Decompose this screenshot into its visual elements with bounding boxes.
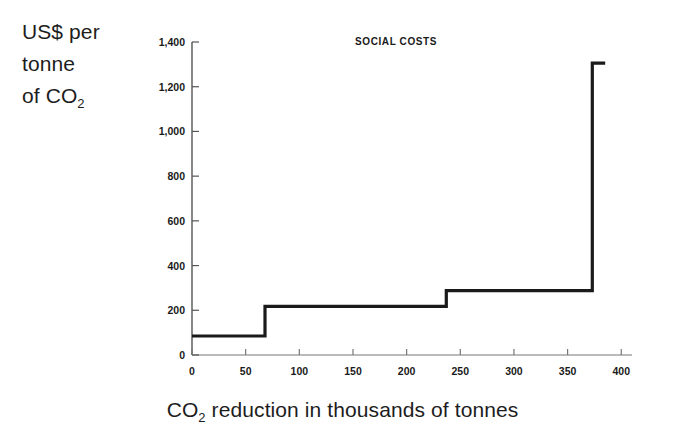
x-axis-ticks	[192, 349, 621, 355]
y-axis-ticks	[192, 42, 199, 355]
y-axis-tick-label: 1,400	[159, 36, 185, 48]
x-axis-tick-label: 200	[398, 365, 416, 377]
y-axis-tick-label: 400	[167, 260, 185, 272]
x-axis-tick-label: 300	[505, 365, 523, 377]
x-axis-caption-suffix: reduction in thousands of tonnes	[206, 398, 519, 421]
y-axis-tick-label: 1,200	[159, 81, 185, 93]
y-axis-tick-label: 0	[179, 349, 185, 361]
x-axis-tick-label: 400	[613, 365, 631, 377]
x-axis-caption: CO2 reduction in thousands of tonnes	[0, 398, 685, 422]
y-axis-tick-labels: 02004006008001,0001,2001,400	[159, 36, 185, 361]
y-axis-tick-label: 800	[167, 170, 185, 182]
x-axis-caption-prefix: CO	[167, 398, 199, 421]
y-axis-tick-label: 200	[167, 304, 185, 316]
x-axis-tick-label: 100	[291, 365, 309, 377]
y-axis-tick-label: 1,000	[159, 125, 185, 137]
chart-figure: US$ per tonne of CO2 SOCIAL COSTS 020040…	[0, 0, 685, 436]
x-axis-tick-label: 150	[344, 365, 362, 377]
x-axis-tick-label: 250	[452, 365, 470, 377]
x-axis-tick-label: 350	[559, 365, 577, 377]
plot-area: 02004006008001,0001,2001,400 05010015020…	[0, 0, 685, 436]
x-axis-tick-labels: 050100150200250300350400	[189, 365, 630, 377]
step-curve	[192, 63, 605, 336]
x-axis-tick-label: 0	[189, 365, 195, 377]
x-axis-tick-label: 50	[240, 365, 252, 377]
x-axis-caption-subscript: 2	[198, 410, 205, 425]
y-axis-tick-label: 600	[167, 215, 185, 227]
